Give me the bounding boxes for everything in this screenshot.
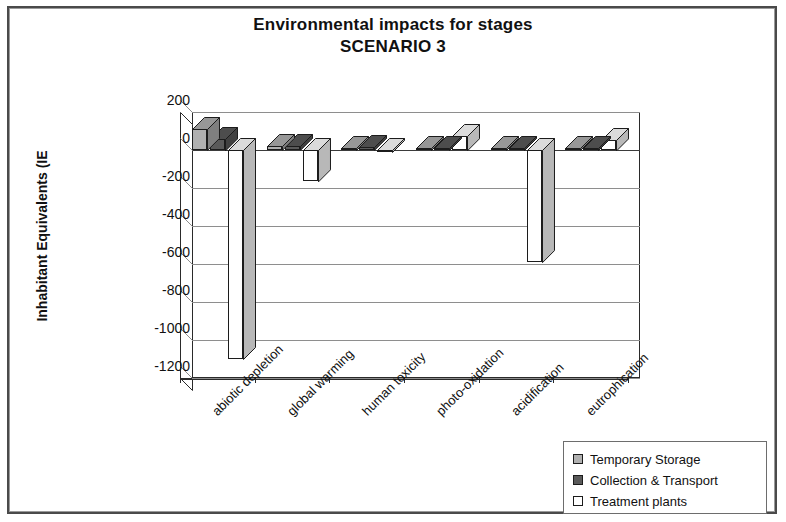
- bar: [341, 148, 356, 150]
- bar: [565, 148, 580, 150]
- plot-area: 2000-200-400-600-800-1000-1200: [150, 100, 650, 400]
- legend-swatch-icon: [573, 454, 583, 464]
- bar: [192, 129, 207, 150]
- bar: [527, 150, 542, 262]
- bar-top-face: [565, 136, 593, 149]
- legend-item: Temporary Storage: [573, 450, 701, 468]
- bar: [491, 148, 506, 150]
- bar-top-face: [416, 136, 444, 149]
- legend-label: Treatment plants: [590, 494, 687, 509]
- bar-top-face: [491, 136, 519, 149]
- bar-front-face: [192, 129, 207, 150]
- chart-page: Environmental impacts for stages SCENARI…: [0, 0, 786, 522]
- legend-label: Temporary Storage: [590, 452, 701, 467]
- bar: [303, 150, 318, 181]
- legend-item: Collection & Transport: [573, 471, 718, 489]
- legend-swatch-icon: [573, 496, 583, 506]
- chart-subtitle: SCENARIO 3: [0, 36, 786, 58]
- chart-title: Environmental impacts for stages SCENARI…: [0, 14, 786, 58]
- bar-top-face: [452, 124, 480, 137]
- chart-legend: Temporary StorageCollection & TransportT…: [563, 441, 767, 514]
- bar-top-face: [341, 136, 369, 149]
- bar-front-face: [303, 150, 318, 181]
- y-axis-title: Inhabitant Equivalents (IE: [34, 106, 50, 366]
- bar-side-face: [243, 138, 256, 360]
- bar: [267, 146, 282, 150]
- legend-swatch-icon: [573, 475, 583, 485]
- bar-top-face: [267, 134, 295, 147]
- bar-series-container: [150, 100, 650, 400]
- bar-side-face: [542, 138, 555, 263]
- bar-front-face: [228, 150, 243, 359]
- bar-front-face: [527, 150, 542, 262]
- chart-title-line1: Environmental impacts for stages: [253, 15, 532, 34]
- bar: [416, 148, 431, 150]
- bar: [228, 150, 243, 359]
- legend-label: Collection & Transport: [590, 473, 718, 488]
- bar-top-face: [192, 117, 220, 130]
- legend-item: Treatment plants: [573, 492, 687, 510]
